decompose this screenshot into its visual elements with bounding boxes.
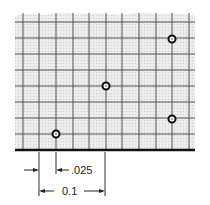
arrow-left-icon: [56, 168, 62, 172]
point-center-dot: [171, 118, 173, 120]
arrow-right-icon: [99, 189, 105, 193]
point-center-dot: [105, 85, 107, 87]
dimension-025-label: .025: [71, 164, 92, 176]
point-center-dot: [55, 133, 57, 135]
dimension-01: 0.1: [39, 185, 105, 197]
dimension-01-label: 0.1: [62, 185, 77, 197]
point-center-dot: [171, 38, 173, 40]
dimension-025: .025: [24, 164, 92, 176]
grid-diagram: .025 0.1: [0, 0, 210, 205]
arrow-left-icon: [39, 189, 45, 193]
arrow-right-icon: [33, 168, 39, 172]
grid-shading: [15, 13, 195, 150]
